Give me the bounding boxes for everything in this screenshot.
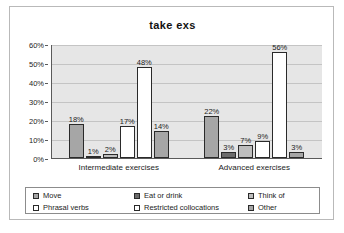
- bar[interactable]: 7%: [238, 145, 253, 158]
- legend-row: MoveEat or drinkThink of: [26, 190, 319, 201]
- bar-value-label: 18%: [69, 115, 84, 124]
- bar-value-label: 22%: [204, 107, 219, 116]
- bar-value-label: 56%: [272, 43, 287, 52]
- legend-item[interactable]: Eat or drink: [134, 191, 248, 200]
- bar-value-label: 7%: [240, 136, 251, 145]
- y-axis-tick-mark: [45, 64, 48, 65]
- bar[interactable]: 3%: [221, 152, 236, 158]
- x-axis-category-label: Advanced exercises: [218, 163, 290, 172]
- bar-value-label: 3%: [291, 143, 302, 152]
- bar[interactable]: 48%: [137, 67, 152, 158]
- legend-swatch-icon: [33, 193, 39, 199]
- legend-row: Phrasal verbsRestricted collocationsOthe…: [26, 202, 319, 213]
- y-axis-tick-mark: [45, 140, 48, 141]
- bar-value-label: 3%: [223, 143, 234, 152]
- legend-item[interactable]: Other: [248, 203, 318, 212]
- y-axis-tick-mark: [45, 102, 48, 103]
- y-axis-tick-label: 20%: [29, 117, 44, 126]
- legend-swatch-icon: [248, 193, 254, 199]
- x-axis-category-label: Intermediate exercises: [79, 163, 159, 172]
- legend-item[interactable]: Think of: [248, 191, 318, 200]
- bar-value-label: 14%: [154, 122, 169, 131]
- bar-value-label: 9%: [257, 132, 268, 141]
- bar[interactable]: 56%: [272, 52, 287, 158]
- y-axis-tick-mark: [45, 45, 48, 46]
- x-axis-category-labels: Intermediate exercisesAdvanced exercises: [51, 163, 322, 177]
- bar[interactable]: 9%: [255, 141, 270, 158]
- y-axis-tick-label: 50%: [29, 60, 44, 69]
- bar[interactable]: 2%: [103, 154, 118, 158]
- y-axis-tick-label: 30%: [29, 98, 44, 107]
- legend-item-label: Restricted collocations: [144, 203, 219, 212]
- y-axis-tick-mark: [45, 83, 48, 84]
- bar-value-label: 1%: [88, 147, 99, 156]
- bars-layer: 18%1%2%17%48%14%22%3%7%9%56%3%: [51, 45, 322, 159]
- bar-value-label: 48%: [137, 58, 152, 67]
- bar[interactable]: 22%: [204, 116, 219, 158]
- bar-value-label: 2%: [105, 145, 116, 154]
- chart-legend: MoveEat or drinkThink ofPhrasal verbsRes…: [25, 187, 320, 214]
- y-axis-tick-label: 0%: [33, 155, 44, 164]
- y-axis-tick-mark: [45, 121, 48, 122]
- chart-title: take exs: [10, 19, 335, 31]
- legend-item-label: Other: [258, 203, 277, 212]
- bar-group: 18%1%2%17%48%14%: [69, 45, 169, 158]
- legend-swatch-icon: [248, 205, 254, 211]
- legend-swatch-icon: [134, 193, 140, 199]
- bar[interactable]: 14%: [154, 131, 169, 158]
- legend-item[interactable]: Phrasal verbs: [26, 203, 134, 212]
- bar[interactable]: 3%: [289, 152, 304, 158]
- legend-item[interactable]: Restricted collocations: [134, 203, 248, 212]
- y-axis-tick-label: 10%: [29, 136, 44, 145]
- bar[interactable]: 1%: [86, 156, 101, 158]
- plot-wrapper: 18%1%2%17%48%14%22%3%7%9%56%3%: [51, 45, 322, 159]
- y-axis-tick-label: 60%: [29, 41, 44, 50]
- legend-swatch-icon: [134, 205, 140, 211]
- legend-item-label: Move: [43, 191, 61, 200]
- bar-group: 22%3%7%9%56%3%: [204, 45, 304, 158]
- legend-item-label: Eat or drink: [144, 191, 182, 200]
- chart-frame: take exs 60%50%40%30%20%10%0% 18%1%2%17%…: [9, 6, 334, 220]
- legend-item[interactable]: Move: [26, 191, 134, 200]
- y-axis-tick-label: 40%: [29, 79, 44, 88]
- y-axis-tick-mark: [45, 159, 48, 160]
- bar[interactable]: 18%: [69, 124, 84, 158]
- legend-swatch-icon: [33, 205, 39, 211]
- legend-item-label: Phrasal verbs: [43, 203, 89, 212]
- y-axis: 60%50%40%30%20%10%0%: [10, 45, 48, 159]
- bar-value-label: 17%: [120, 117, 135, 126]
- legend-item-label: Think of: [258, 191, 285, 200]
- bar[interactable]: 17%: [120, 126, 135, 158]
